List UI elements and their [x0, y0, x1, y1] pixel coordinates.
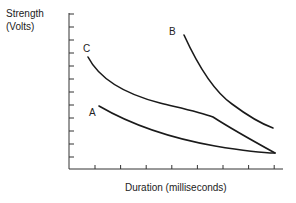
curve-label-b: B	[169, 26, 176, 37]
x-axis-ticks	[95, 165, 274, 169]
curve-label-c: C	[83, 43, 90, 54]
curve-a	[99, 106, 275, 153]
x-axis-label: Duration (milliseconds)	[125, 182, 227, 193]
axes	[69, 13, 283, 169]
curve-b	[184, 35, 273, 128]
curve-label-a: A	[89, 107, 96, 118]
chart-plot	[0, 0, 296, 203]
y-axis-ticks	[69, 14, 74, 157]
